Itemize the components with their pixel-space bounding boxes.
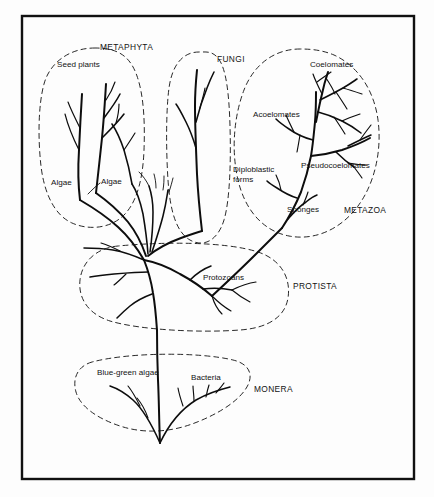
monera-outline: [75, 354, 250, 431]
phylogenetic-tree-figure: METAPHYTA FUNGI METAZOA PROTISTA MONERA …: [0, 0, 434, 497]
algae-line-2: [154, 174, 156, 188]
group-label-diploblastic-forms-line2: forms: [233, 175, 253, 184]
bacteria-twig-3: [206, 385, 209, 397]
metaphyta-right-branch: [112, 124, 132, 184]
root-trunk: [157, 330, 160, 443]
coelomates-twig-7: [326, 78, 335, 94]
coelomates-twig-6: [317, 72, 331, 82]
group-label-acoelomates: Acoelomates: [253, 110, 300, 119]
algae-line-3: [163, 176, 164, 190]
group-label-blue-green-algae: Blue-green algae: [97, 368, 159, 377]
protist-left-branch-3: [117, 294, 152, 318]
metaphyta-right-twig: [124, 133, 135, 150]
stem-to-metaphyta-2: [96, 193, 146, 256]
fungi-branch-1: [176, 104, 196, 148]
kingdom-label-metaphyta: METAPHYTA: [100, 42, 153, 52]
protist-right-branch: [144, 260, 212, 296]
stem-to-algae-right: [152, 190, 168, 252]
blue-green-algae-twig-1: [128, 386, 140, 406]
group-label-bacteria: Bacteria: [191, 373, 221, 382]
kingdom-label-protista: PROTISTA: [293, 281, 337, 291]
group-label-protozoans: Protozoans: [203, 273, 244, 282]
coelomates-twig-3: [342, 114, 360, 121]
algae-line-4: [169, 178, 173, 192]
fungi-trunk: [195, 70, 202, 231]
group-label-diploblastic-forms: Diploblastic: [233, 165, 274, 174]
fungi-twig-1: [200, 88, 205, 108]
fungi-branch-2: [196, 72, 214, 122]
figure-border: [22, 16, 414, 479]
protist-left-branch-1: [84, 248, 144, 260]
metazoa-upper-trunk: [311, 92, 316, 156]
protist-right-twig-5: [232, 290, 250, 302]
coelomates-branch-2: [318, 112, 361, 133]
protist-right-twig-4: [232, 282, 256, 290]
group-label-seed-plants: Seed plants: [57, 60, 100, 69]
group-label-algae-right: Algae: [101, 177, 122, 186]
metaphyta-trunk: [78, 94, 82, 200]
kingdom-label-monera: MONERA: [254, 384, 293, 394]
blue-green-algae-twig-2: [137, 398, 148, 418]
algae-line-5: [88, 183, 100, 194]
protist-left-branch-2: [90, 272, 148, 277]
algae-line-1: [139, 172, 149, 186]
bacteria-branch: [160, 387, 230, 443]
group-label-sponges: Sponges: [287, 205, 319, 214]
coelomates-twig-2: [343, 88, 362, 94]
blue-green-algae-branch: [110, 386, 160, 443]
stem-to-metaphyta-4: [149, 186, 153, 252]
seed-plants-twig-2: [106, 82, 115, 100]
acoelomates-branch: [276, 119, 313, 140]
kingdom-label-fungi: FUNGI: [217, 54, 245, 64]
group-label-coelomates: Coelomates: [310, 60, 353, 69]
bacteria-twig-1: [178, 388, 183, 406]
group-label-algae-left: Algae: [51, 178, 72, 187]
fungi-outline: [167, 52, 231, 243]
coelomates-twig-1: [336, 92, 347, 109]
diploblastic-branch: [267, 181, 297, 198]
acoelomates-twig-2: [297, 135, 300, 152]
group-label-pseudocoelomates: Pseudocoelomates: [301, 161, 370, 170]
metaphyta-outline: [39, 48, 144, 227]
pseudocoelomates-branch: [311, 138, 370, 156]
protist-left-twig-2: [114, 274, 126, 285]
stem-to-metazoa: [212, 228, 282, 296]
metaphyta-twig-left-2: [68, 102, 80, 128]
bacteria-twig-4: [216, 383, 224, 393]
kingdom-label-metazoa: METAZOA: [344, 205, 386, 215]
metaphyta-twig-left-1: [65, 114, 79, 150]
coelomates-twig-5: [313, 74, 322, 94]
tree-of-life-diagram: METAPHYTA FUNGI METAZOA PROTISTA MONERA …: [0, 0, 434, 497]
bacteria-twig-2: [193, 386, 194, 401]
stem-to-fungi: [148, 231, 202, 256]
protista-outline: [80, 243, 289, 331]
protist-right-twig-6: [212, 296, 222, 314]
